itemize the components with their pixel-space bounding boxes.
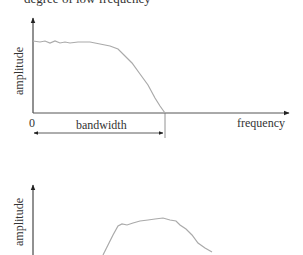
response-curve xyxy=(33,41,165,113)
origin-label: 0 xyxy=(29,116,35,130)
chart-lowpass: amplitude 0 frequency bandwidth xyxy=(12,18,289,138)
bandwidth-label: bandwidth xyxy=(76,118,127,132)
y-axis-label: amplitude xyxy=(12,198,26,246)
y-axis-label: amplitude xyxy=(12,47,26,95)
x-axis-label: frequency xyxy=(237,116,285,130)
chart-bandpass: amplitude xyxy=(12,185,212,255)
response-curve xyxy=(103,218,212,255)
